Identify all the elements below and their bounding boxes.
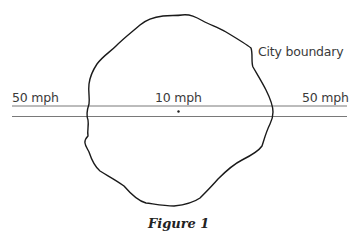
city-center-dot [177,110,179,112]
road-center-speed-label: 10 mph [155,92,202,105]
road-right-speed-label: 50 mph [302,92,349,105]
diagram-canvas [0,0,355,232]
road-left-speed-label: 50 mph [12,92,59,105]
city-boundary-label: City boundary [258,46,343,59]
figure-caption: Figure 1 [148,217,209,230]
city-speed-diagram: City boundary 50 mph 10 mph 50 mph Figur… [0,0,355,232]
